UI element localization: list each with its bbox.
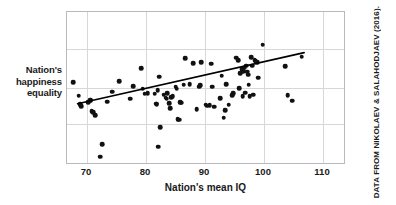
x-axis-tick-label: 100 (255, 166, 271, 177)
trendline (67, 12, 344, 163)
x-axis-tick-label: 80 (140, 166, 151, 177)
data-source-credit-text: DATA FROM NIKOLAEV & SALAHODJAEV (2016). (372, 6, 381, 198)
y-axis-label-line-2: happiness (4, 76, 62, 88)
x-axis-label: Nation's mean IQ (66, 182, 345, 193)
x-axis-tick-label: 110 (314, 166, 329, 177)
scatter-plot-figure: Nation's happiness equality 708090100110… (0, 0, 396, 205)
y-axis-label: Nation's happiness equality (4, 64, 62, 99)
x-axis-tick-label: 70 (81, 166, 92, 177)
y-axis-label-line-3: equality (4, 87, 62, 99)
data-source-credit: DATA FROM NIKOLAEV & SALAHODJAEV (2016). (366, 0, 386, 205)
plot-area (66, 11, 345, 164)
y-axis-label-line-1: Nation's (4, 64, 62, 76)
x-axis-tick-label: 90 (199, 166, 210, 177)
